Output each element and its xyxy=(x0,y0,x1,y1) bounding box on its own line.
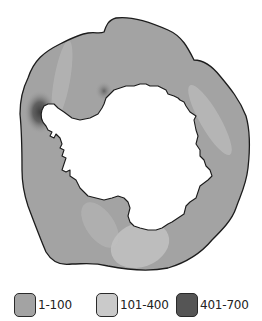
map-graphic xyxy=(0,0,262,285)
map-legend: 1-100 101-400 401-700 xyxy=(0,286,262,321)
legend-label: 1-100 xyxy=(38,298,72,312)
legend-item-101-400: 101-400 xyxy=(96,292,169,318)
legend-label: 101-400 xyxy=(120,298,169,312)
legend-swatch-medium xyxy=(96,293,118,317)
legend-item-1-100: 1-100 xyxy=(14,292,72,318)
legend-swatch-low xyxy=(14,293,36,317)
legend-swatch-high xyxy=(176,293,198,317)
legend-label: 401-700 xyxy=(200,298,249,312)
legend-item-401-700: 401-700 xyxy=(176,292,249,318)
antarctica-map xyxy=(0,0,262,285)
